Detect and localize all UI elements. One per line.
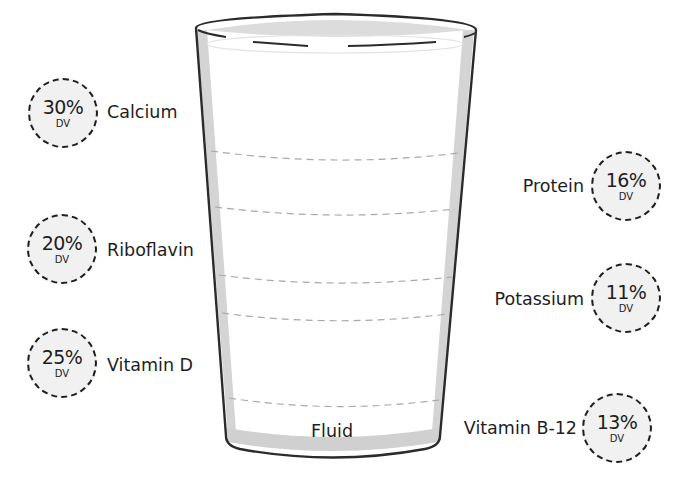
measurement-line — [219, 275, 452, 283]
riboflavin-label: Riboflavin — [107, 240, 194, 260]
glass-liquid-surface — [207, 35, 463, 53]
dv-percent: 13% — [597, 413, 638, 432]
dv-unit: DV — [619, 303, 633, 315]
measurement-line — [215, 207, 455, 215]
dv-unit: DV — [56, 118, 70, 130]
calcium-label: Calcium — [107, 102, 177, 122]
vitamin-d-label: Vitamin D — [107, 355, 193, 375]
calcium-dv-badge: 30% DV — [28, 78, 98, 148]
potassium-label: Potassium — [495, 289, 584, 309]
dv-unit: DV — [55, 368, 69, 380]
glass-left-wall-shade — [197, 30, 236, 436]
dv-percent: 20% — [42, 234, 83, 253]
dv-unit: DV — [610, 433, 624, 445]
glass-illustration — [0, 0, 680, 487]
vitamin-b12-dv-badge: 13% DV — [582, 393, 652, 463]
measurement-lines — [211, 151, 459, 407]
vitamin-b12-label: Vitamin B-12 — [464, 418, 577, 438]
protein-dv-badge: 16% DV — [591, 151, 661, 221]
dv-percent: 16% — [606, 171, 647, 190]
dv-unit: DV — [619, 191, 633, 203]
measurement-line — [222, 313, 448, 321]
dv-percent: 11% — [606, 283, 647, 302]
fluid-label: Fluid — [300, 421, 364, 441]
protein-label: Protein — [523, 176, 584, 196]
glass-rim-highlight-left — [253, 42, 308, 46]
measurement-line — [229, 398, 439, 407]
glass-outline — [196, 14, 476, 458]
dv-percent: 30% — [43, 98, 84, 117]
potassium-dv-badge: 11% DV — [591, 263, 661, 333]
measurement-line — [211, 151, 459, 160]
riboflavin-dv-badge: 20% DV — [27, 214, 97, 284]
dv-percent: 25% — [42, 348, 83, 367]
glass-right-wall-shade — [432, 30, 474, 436]
vitamin-d-dv-badge: 25% DV — [27, 328, 97, 398]
dv-unit: DV — [55, 254, 69, 266]
glass-rim-highlight-right — [348, 42, 436, 46]
